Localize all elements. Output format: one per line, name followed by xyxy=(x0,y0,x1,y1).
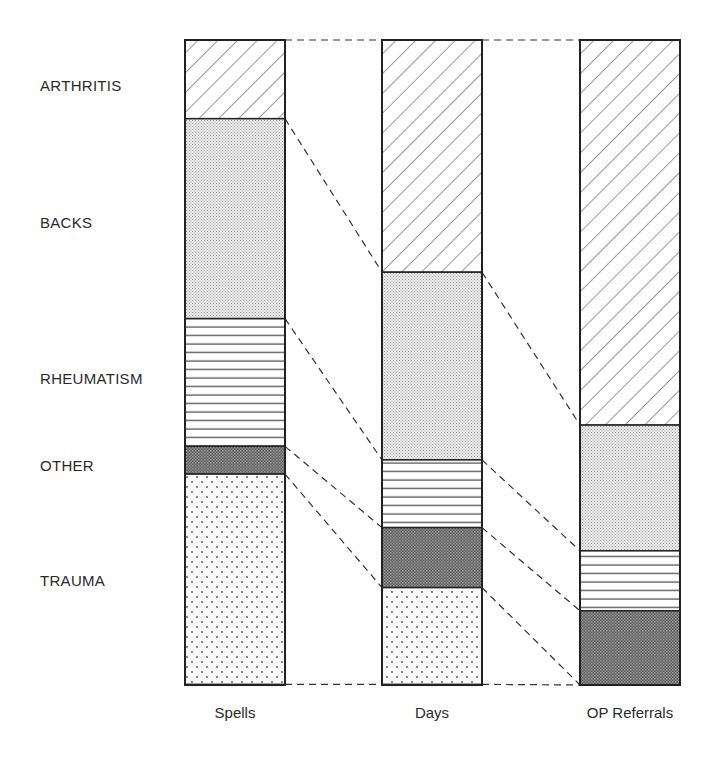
segment-other-op-referrals xyxy=(580,611,680,685)
bar-label-spells: Spells xyxy=(155,704,315,721)
category-label-other: OTHER xyxy=(40,457,94,474)
segment-trauma-spells xyxy=(185,474,285,684)
segment-backs-days xyxy=(382,272,482,460)
connector-line xyxy=(285,119,382,273)
segment-rheumatism-op-referrals xyxy=(580,551,680,611)
segment-backs-op-referrals xyxy=(580,425,680,551)
segment-rheumatism-spells xyxy=(185,319,285,447)
segment-backs-spells xyxy=(185,119,285,319)
segment-trauma-days xyxy=(382,588,482,685)
connector-line xyxy=(285,474,382,588)
category-label-rheumatism: RHEUMATISM xyxy=(40,370,143,387)
segment-other-days xyxy=(382,528,482,588)
segment-arthritis-days xyxy=(382,40,482,272)
bar-label-op-referrals: OP Referrals xyxy=(550,704,710,721)
connector-line xyxy=(482,528,580,611)
segment-rheumatism-days xyxy=(382,460,482,528)
segment-other-spells xyxy=(185,446,285,474)
category-label-backs: BACKS xyxy=(40,214,92,231)
segment-arthritis-op-referrals xyxy=(580,40,680,425)
connector-line xyxy=(482,684,580,685)
connector-line xyxy=(482,272,580,425)
bars-group xyxy=(185,40,680,685)
connector-line xyxy=(285,319,382,460)
connector-line xyxy=(285,446,382,527)
category-label-trauma: TRAUMA xyxy=(40,572,105,589)
category-label-arthritis: ARTHRITIS xyxy=(40,77,122,94)
connector-line xyxy=(482,588,580,685)
connector-line xyxy=(482,460,580,551)
segment-arthritis-spells xyxy=(185,40,285,119)
bar-label-days: Days xyxy=(352,704,512,721)
